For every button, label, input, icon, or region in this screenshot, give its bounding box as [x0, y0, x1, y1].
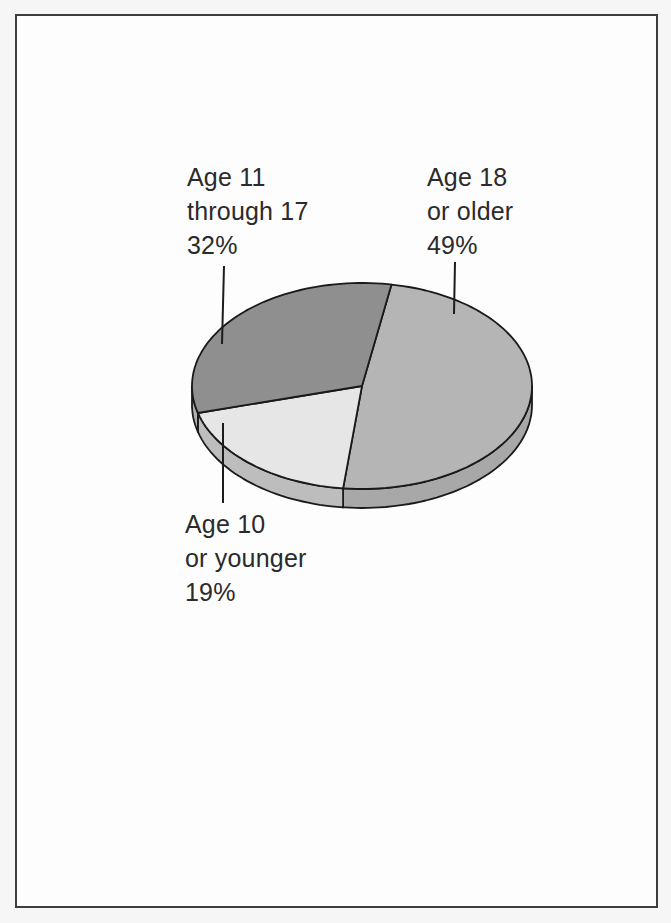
slice-label-line: Age 11: [187, 160, 309, 194]
slice-label-age-10-or-younger: Age 10 or younger 19%: [185, 507, 307, 609]
leader-line-age-18-or-older: [454, 262, 455, 314]
slice-percent-value: 32%: [187, 228, 309, 262]
page: { "chart_data": { "type": "pie", "style"…: [0, 0, 671, 923]
slice-label-line: Age 18: [427, 160, 513, 194]
slice-label-line: through 17: [187, 194, 309, 228]
slice-label-age-18-or-older: Age 18 or older 49%: [427, 160, 513, 262]
slice-label-line: Age 10: [185, 507, 307, 541]
slice-percent-value: 49%: [427, 228, 513, 262]
slice-label-age-11-through-17: Age 11 through 17 32%: [187, 160, 309, 262]
slice-label-line: or younger: [185, 541, 307, 575]
slice-percent-value: 19%: [185, 575, 307, 609]
pie-chart-canvas: [0, 0, 671, 923]
slice-label-line: or older: [427, 194, 513, 228]
